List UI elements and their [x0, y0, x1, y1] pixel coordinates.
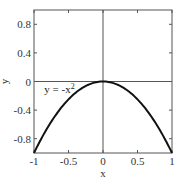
x-tick-label: -0.5	[60, 155, 78, 167]
y-tick-label: 0.8	[17, 18, 31, 30]
y-tick-label: -0.8	[14, 133, 32, 145]
y-tick-label: 0	[26, 76, 32, 88]
y-tick-label: -0.4	[14, 104, 32, 116]
x-axis-label: x	[100, 167, 106, 179]
y-tick-label: 0.4	[17, 47, 31, 59]
x-tick-label: 0.5	[131, 155, 145, 167]
x-tick-label: 1	[169, 155, 175, 167]
x-tick-label: -1	[29, 155, 38, 167]
annotation-superscript: 2	[71, 82, 75, 91]
chart: -1-0.500.51-0.8-0.400.40.8 y = -x2 x y	[0, 0, 182, 185]
annotation-equation: y = -x2	[44, 82, 74, 95]
y-axis-label: y	[0, 78, 10, 84]
x-tick-label: 0	[100, 155, 106, 167]
